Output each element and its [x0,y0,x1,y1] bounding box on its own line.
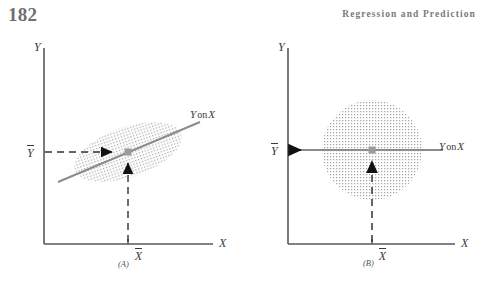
panel-a-y-mean-label: Y [27,146,34,161]
page-canvas: 182 Regression and Prediction [0,0,486,284]
centroid-marker [125,149,132,156]
centroid-marker [369,147,376,154]
panel-b-x-mean-label: X [379,249,386,264]
panel-b-graphic [243,30,486,280]
panel-b-x-axis-label: X [461,236,468,251]
panel-b-y-mean-label: Y [271,144,278,159]
panel-a-regression-label: YonX [190,108,215,120]
panel-b-tag: (B) [363,258,374,268]
panel-a-graphic [0,30,243,280]
overbar [271,143,277,144]
panel-a-y-axis-label: Y [34,40,41,55]
figure-panel-b: Y X Y X YonX (B) [243,30,486,280]
y-mean-letter: Y [27,146,34,160]
running-head: Regression and Prediction [342,9,476,19]
regression-label-connector: on [445,141,457,152]
page-number: 182 [8,4,37,26]
x-mean-letter: X [379,249,386,263]
figure-panel-a: Y X Y X YonX (A) [0,30,243,280]
panel-b-regression-label: YonX [439,140,464,152]
panel-a-x-axis-label: X [219,236,226,251]
x-mean-letter: X [135,249,142,263]
regression-label-var2: X [208,108,215,120]
panel-b-y-axis-label: Y [278,40,285,55]
figure-caption [40,277,450,284]
overbar [379,248,386,249]
regression-label-var2: X [457,140,464,152]
overbar [27,145,33,146]
regression-label-connector: on [196,109,208,120]
y-mean-letter: Y [271,144,278,158]
overbar [135,248,142,249]
panel-a-x-mean-label: X [135,249,142,264]
panel-a-tag: (A) [118,259,129,269]
